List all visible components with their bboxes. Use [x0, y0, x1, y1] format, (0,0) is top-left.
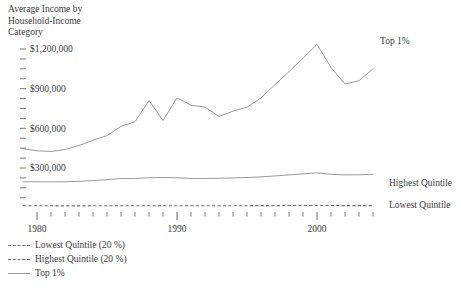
x-axis-tick-label: 1990	[168, 224, 187, 234]
inline-annotations: Top 1%Highest QuintileLowest Quintile	[380, 36, 452, 210]
y-axis-tick-label: $600,000	[30, 124, 66, 134]
y-axis-tick-label: $900,000	[30, 84, 66, 94]
legend-item-label: Top 1%	[35, 266, 65, 280]
series-lines	[23, 44, 373, 205]
x-axis-tick-label: 1980	[28, 224, 47, 234]
y-axis-tick-label: $300,000	[30, 163, 66, 173]
series-inline-label: Lowest Quintile	[389, 200, 450, 210]
legend-item: Top 1%	[8, 266, 127, 280]
x-axis: 198019902000	[28, 212, 374, 234]
legend-line-icon	[8, 268, 30, 278]
legend-line-icon	[8, 240, 30, 250]
legend-item: Highest Quintile (20 %)	[8, 252, 127, 266]
legend-item-label: Highest Quintile (20 %)	[35, 252, 127, 266]
series-inline-label: Top 1%	[380, 36, 410, 46]
y-axis-tick-label: $1,200,000	[30, 44, 73, 54]
chart-legend: Lowest Quintile (20 %) Highest Quintile …	[8, 238, 127, 280]
series-line	[23, 44, 373, 151]
legend-item: Lowest Quintile (20 %)	[8, 238, 127, 252]
legend-item-label: Lowest Quintile (20 %)	[35, 238, 125, 252]
legend-line-icon	[8, 254, 30, 264]
series-line	[23, 173, 373, 182]
x-axis-tick-label: 2000	[308, 224, 327, 234]
series-inline-label: Highest Quintile	[389, 178, 452, 188]
chart-container: Average Income by Household-Income Categ…	[0, 0, 461, 288]
y-axis: $1,200,000$900,000$600,000$300,000	[20, 44, 73, 197]
